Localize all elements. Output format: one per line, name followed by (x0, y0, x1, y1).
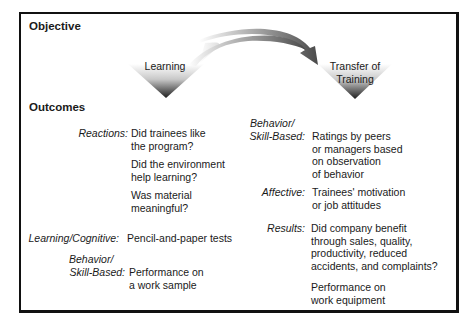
learning-cognitive-text: Pencil-and-paper tests (127, 232, 232, 245)
results-text: Did company benefit through sales, quali… (311, 222, 438, 272)
right-behavior-line: on observation (312, 155, 402, 168)
left-behavior-text: Performance on a work sample (129, 266, 204, 291)
results-line: accidents, and complaints? (311, 260, 438, 273)
right-behavior-text: Ratings by peers or managers based on ob… (312, 130, 402, 180)
right-behavior-line: or managers based (312, 143, 402, 156)
affective-label: Affective: (230, 186, 305, 199)
transfer-stage-label: Transfer of Training (320, 60, 390, 85)
affective-line: Trainees' motivation (312, 186, 405, 199)
right-behavior-label-line2: Skill-Based: (230, 130, 305, 143)
results-line: Did company benefit (311, 222, 438, 235)
results-label: Results: (230, 222, 305, 235)
reactions-item-line: the program? (131, 140, 206, 153)
affective-line: or job attitudes (312, 199, 405, 212)
reactions-item: Did the environment help learning? (131, 158, 225, 183)
reactions-item-line: help learning? (131, 171, 225, 184)
reactions-item-line: Did trainees like (131, 127, 206, 140)
reactions-item: Was material meaningful? (131, 189, 192, 214)
results-extra-text: Performance on work equipment (311, 281, 386, 306)
affective-text: Trainees' motivation or job attitudes (312, 186, 405, 211)
right-behavior-line: Ratings by peers (312, 130, 402, 143)
reactions-label: Reactions: (60, 127, 128, 140)
results-extra-line: work equipment (311, 294, 386, 307)
transfer-label-line1: Transfer of (320, 60, 390, 73)
results-extra-line: Performance on (311, 281, 386, 294)
left-behavior-line: Performance on (129, 266, 204, 279)
reactions-item-line: Did the environment (131, 158, 225, 171)
reactions-item: Did trainees like the program? (131, 127, 206, 152)
left-behavior-label-line2: Skill-Based: (50, 266, 125, 279)
results-line: productivity, reduced (311, 247, 438, 260)
left-behavior-line: a work sample (129, 279, 204, 292)
learning-cognitive-label: Learning/Cognitive: (24, 232, 119, 245)
outcomes-heading: Outcomes (29, 101, 85, 113)
results-line: through sales, quality, (311, 235, 438, 248)
left-behavior-label-line1: Behavior/ (50, 253, 125, 266)
transfer-label-line2: Training (320, 73, 390, 86)
objective-heading: Objective (29, 20, 81, 32)
learning-stage-label: Learning (140, 60, 190, 73)
right-behavior-label-line1: Behavior/ (250, 117, 294, 130)
reactions-item-line: meaningful? (131, 202, 192, 215)
reactions-item-line: Was material (131, 189, 192, 202)
right-behavior-line: of behavior (312, 168, 402, 181)
